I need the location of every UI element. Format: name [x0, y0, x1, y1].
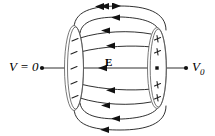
arrowhead-field-4	[106, 87, 115, 93]
field-line-2	[80, 46, 152, 52]
negative-plate	[65, 26, 84, 111]
arrowhead-bottom-inner	[111, 115, 120, 121]
right-potential-label: V0	[192, 60, 204, 77]
arrowhead-field-2	[106, 43, 115, 49]
left-potential-label: V = 0	[9, 60, 38, 73]
arrowhead-top-inner	[111, 14, 120, 20]
field-label: E	[105, 57, 112, 68]
right-terminal-dot	[184, 66, 188, 70]
right-potential-subscript: 0	[200, 67, 205, 77]
arrowhead-bottom-outer	[100, 127, 109, 133]
field-line-4	[80, 84, 152, 90]
left-terminal-dot	[40, 66, 44, 70]
field-line-5	[80, 98, 151, 104]
right-potential-symbol: V	[192, 59, 200, 74]
center-node-dot	[155, 66, 158, 69]
field-line-1	[80, 32, 151, 38]
arrowhead-top-outer	[100, 3, 109, 9]
capacitor-field-diagram: V = 0 V0 E	[0, 0, 215, 136]
